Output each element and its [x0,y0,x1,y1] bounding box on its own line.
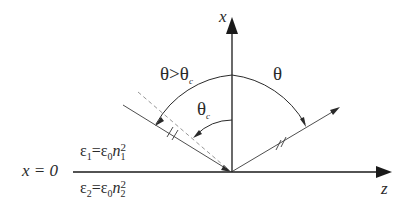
interface-label: x = 0 [22,162,58,179]
z-axis-label: z [381,180,388,197]
reflected-ray-arrow-icon [330,107,340,115]
incident-ray [123,105,231,172]
medium-2-permittivity: ε2=ε0n22 [80,180,128,199]
z-axis-arrow-icon [376,166,392,178]
reflected-ray [233,107,340,171]
critical-angle-ray [138,92,230,171]
x-axis-arrow-icon [226,17,238,34]
theta-label: θ [273,64,282,83]
medium-1-permittivity: ε1=ε0n21 [80,143,128,162]
x-axis [226,17,238,172]
theta-critical-label: θc [197,99,210,121]
x-axis-label: x [219,8,227,25]
diagram-canvas: x z x = 0 θ>θc θ θc ε1=ε0n21 ε2=ε0n22 [0,0,406,209]
theta-gt-critical-label: θ>θc [160,64,193,86]
arc-arrow-right-icon [300,117,306,127]
angle-arc-theta-c [196,120,232,135]
